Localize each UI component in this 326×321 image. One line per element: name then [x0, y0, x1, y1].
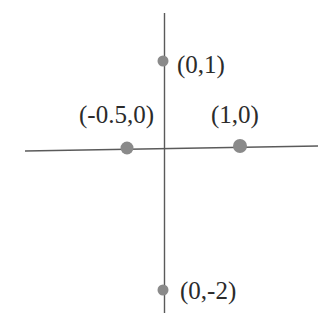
coordinate-plane-figure: (0,1) (-0.5,0) (1,0) (0,-2)	[0, 0, 326, 321]
data-point-0-1[interactable]	[158, 56, 169, 67]
plot-background	[0, 0, 326, 321]
plot-canvas	[0, 0, 326, 321]
data-point-0-neg2[interactable]	[158, 285, 169, 296]
point-label-1-0: (1,0)	[211, 102, 259, 128]
data-point-1-0[interactable]	[233, 139, 247, 153]
point-label-0-1: (0,1)	[177, 52, 225, 78]
point-label-0-neg2: (0,-2)	[180, 278, 236, 304]
point-label-neg05-0: (-0.5,0)	[79, 102, 154, 128]
data-point-neg05-0[interactable]	[121, 142, 134, 155]
